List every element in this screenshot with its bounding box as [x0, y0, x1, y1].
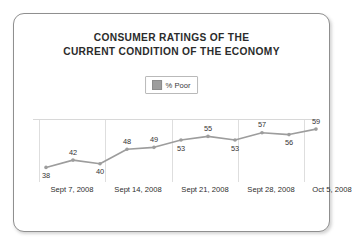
data-point-label: 59 [312, 117, 320, 126]
x-axis-tick-label: Oct 5, 2008 [312, 185, 351, 194]
data-point-marker [179, 138, 183, 142]
data-point-label: 57 [258, 120, 266, 129]
x-axis-tick-label: Sept 28, 2008 [247, 185, 294, 194]
data-point-marker [287, 133, 291, 137]
legend-label-percent-poor: % Poor [166, 81, 191, 90]
x-axis-tick-label: Sept 21, 2008 [181, 185, 228, 194]
data-point-label: 40 [96, 167, 104, 176]
chart-title-line-2: CURRENT CONDITION OF THE ECONOMY [14, 45, 329, 59]
data-point-marker [260, 131, 264, 135]
data-point-label: 42 [69, 148, 77, 157]
data-point-marker [71, 158, 75, 162]
x-axis-tick-label: Sept 7, 2008 [50, 185, 93, 194]
legend-swatch-percent-poor [152, 80, 162, 90]
data-point-label: 53 [231, 144, 239, 153]
chart-card: CONSUMER RATINGS OF THE CURRENT CONDITIO… [13, 13, 330, 232]
data-point-label: 55 [204, 124, 212, 133]
data-point-marker [206, 135, 210, 139]
data-point-marker [314, 127, 318, 131]
data-point-marker [125, 147, 129, 151]
chart-title: CONSUMER RATINGS OF THE CURRENT CONDITIO… [14, 31, 329, 58]
chart-title-line-1: CONSUMER RATINGS OF THE [14, 31, 329, 45]
x-axis-labels: Sept 7, 2008Sept 14, 2008Sept 21, 2008Se… [33, 185, 318, 201]
data-point-marker [98, 162, 102, 166]
data-point-label: 38 [42, 171, 50, 180]
x-axis-tick-label: Sept 14, 2008 [114, 185, 161, 194]
plot-area: 3842404849535553575659 [33, 119, 318, 181]
data-point-label: 49 [150, 135, 158, 144]
data-point-label: 53 [177, 144, 185, 153]
data-point-label: 56 [285, 138, 293, 147]
data-point-label: 48 [123, 137, 131, 146]
chart-legend: % Poor [145, 76, 199, 94]
data-point-marker [152, 146, 156, 150]
data-point-marker [233, 138, 237, 142]
data-point-marker [44, 166, 48, 170]
plot-wrapper: 3842404849535553575659 Sept 7, 2008Sept … [33, 119, 318, 215]
